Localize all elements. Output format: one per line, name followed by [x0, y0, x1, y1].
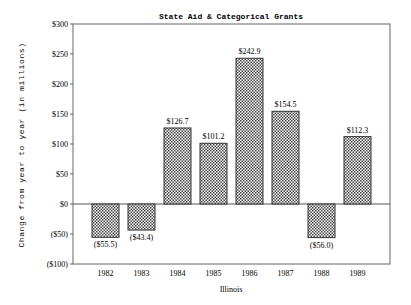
chart-title: State Aid & Categorical Grants [159, 12, 303, 21]
y-tick-label: $200 [52, 80, 68, 89]
bar-value-label: $242.9 [239, 47, 261, 56]
bar-1987 [272, 111, 299, 204]
x-tick-label: 1989 [350, 269, 366, 278]
y-tick-label: $0 [60, 200, 68, 209]
bar-value-label: $126.7 [167, 117, 189, 126]
y-tick-label: $100 [52, 140, 68, 149]
bar-value-label: $101.2 [203, 132, 225, 141]
y-tick-label: ($50) [51, 230, 69, 239]
bars-group: ($55.5)($43.4)$126.7$101.2$242.9$154.5($… [92, 47, 371, 249]
y-tick-label: ($100) [47, 260, 69, 269]
y-tick-label: $250 [52, 50, 68, 59]
x-tick-label: 1987 [278, 269, 294, 278]
x-tick-label: 1982 [98, 269, 114, 278]
x-tick-label: 1983 [134, 269, 150, 278]
bar-1984 [164, 128, 191, 204]
y-axis: $300$250$200$150$100$50$0($50)($100) [47, 20, 73, 269]
bar-value-label: $112.3 [347, 126, 369, 135]
y-axis-label: Change from year to year (in millions) [17, 42, 26, 247]
bar-chart: State Aid & Categorical Grants $300$250$… [0, 0, 411, 305]
x-axis: 19821983198419851986198719881989 [98, 269, 366, 278]
bar-1988 [308, 204, 335, 238]
x-tick-label: 1986 [242, 269, 258, 278]
x-tick-label: 1985 [206, 269, 222, 278]
bar-value-label: $154.5 [275, 100, 297, 109]
bar-1986 [236, 58, 263, 204]
x-tick-label: 1984 [170, 269, 186, 278]
x-tick-label: 1988 [314, 269, 330, 278]
plot-frame [73, 24, 390, 264]
y-tick-label: $300 [52, 20, 68, 29]
bar-1982 [92, 204, 119, 237]
y-tick-label: $50 [56, 170, 68, 179]
bar-value-label: ($43.4) [130, 233, 154, 242]
bar-value-label: ($56.0) [310, 241, 334, 250]
bar-1985 [200, 143, 227, 204]
bar-1983 [128, 204, 155, 230]
y-tick-label: $150 [52, 110, 68, 119]
x-axis-label: Illinois [220, 285, 243, 294]
bar-value-label: ($55.5) [94, 240, 118, 249]
bar-1989 [344, 137, 371, 204]
